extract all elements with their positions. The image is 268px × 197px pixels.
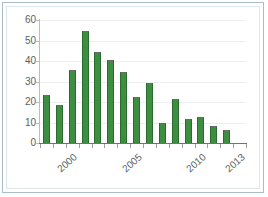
bar [185,119,192,143]
x-tick-mark [207,144,208,148]
y-axis-tick-label: 60 [2,15,36,25]
x-axis-tick-label: 2013 [223,152,246,174]
plot-area [40,20,246,143]
x-tick-mark [53,144,54,148]
x-tick-mark [156,144,157,148]
bar [172,99,179,143]
y-axis-tick-label: 0 [2,138,36,148]
x-tick-mark [104,144,105,148]
x-tick-mark [246,144,247,148]
bar [210,126,217,143]
x-tick-mark [40,144,41,148]
y-axis-tick-label: 40 [2,56,36,66]
x-tick-mark [233,144,234,148]
bar [159,123,166,144]
bar [82,31,89,143]
x-tick-mark [143,144,144,148]
y-axis-tick-label: 30 [2,77,36,87]
bar-chart: 0102030405060 2000200520102013 [0,0,268,197]
bar [69,70,76,143]
bar [133,97,140,143]
x-axis-tick-label: 2005 [120,152,143,174]
bar [120,72,127,143]
x-tick-mark [220,144,221,148]
chart-screenshot: 0102030405060 2000200520102013 [0,0,268,197]
x-tick-mark [92,144,93,148]
bar [56,105,63,143]
bar [43,95,50,143]
x-tick-mark [79,144,80,148]
bar [107,60,114,143]
x-tick-mark [130,144,131,148]
bar [146,83,153,143]
y-axis-tick-label: 20 [2,97,36,107]
x-tick-mark [182,144,183,148]
y-axis-tick-label: 50 [2,36,36,46]
x-tick-mark [195,144,196,148]
x-tick-mark [169,144,170,148]
x-axis-tick-label: 2010 [185,152,208,174]
x-tick-mark [117,144,118,148]
bar [94,52,101,143]
x-tick-mark [66,144,67,148]
bar [223,130,230,143]
bar [197,117,204,143]
y-axis-tick-label: 10 [2,118,36,128]
x-axis-tick-label: 2000 [56,152,79,174]
